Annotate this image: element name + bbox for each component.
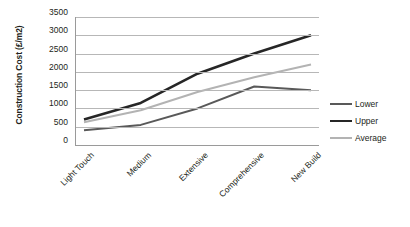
legend-item-upper[interactable]: Upper (330, 112, 408, 129)
legend-label: Upper (355, 116, 378, 126)
plot-area (75, 17, 319, 146)
y-axis-tick-label: 3500 (20, 7, 68, 17)
chart-legend: LowerUpperAverage (330, 95, 408, 146)
legend-swatch-lower-icon (330, 103, 352, 105)
y-axis-tick-label: 1000 (20, 98, 68, 108)
x-axis-tick-label: New Build (289, 150, 323, 184)
legend-item-average[interactable]: Average (330, 129, 408, 146)
legend-item-lower[interactable]: Lower (330, 95, 408, 112)
y-axis-tick-label: 500 (20, 117, 68, 127)
gridline (76, 90, 319, 91)
gridline (76, 54, 319, 55)
legend-swatch-upper-icon (330, 120, 352, 122)
x-axis-tick-label: Extensive (176, 150, 209, 183)
x-axis-tick-label: Comprehensive (217, 150, 266, 199)
gridline (76, 108, 319, 109)
gridline (76, 17, 319, 18)
legend-label: Average (355, 133, 387, 143)
gridline (76, 127, 319, 128)
y-axis-tick-labels: 0500100015002000250030003500 (20, 12, 68, 149)
line-chart: Construction Cost (£/m2) 050010001500200… (0, 0, 410, 227)
legend-label: Lower (355, 99, 378, 109)
y-axis-tick-label: 1500 (20, 80, 68, 90)
x-axis-tick-label: Light Touch (58, 150, 96, 188)
y-axis-tick-label: 2500 (20, 44, 68, 54)
series-line-upper (84, 35, 311, 119)
gridline (76, 35, 319, 36)
legend-swatch-average-icon (330, 137, 352, 139)
x-axis-tick-label: Medium (124, 150, 152, 178)
gridline (76, 72, 319, 73)
y-axis-tick-label: 2000 (20, 62, 68, 72)
y-axis-tick-label: 0 (20, 135, 68, 145)
y-axis-tick-label: 3000 (20, 25, 68, 35)
